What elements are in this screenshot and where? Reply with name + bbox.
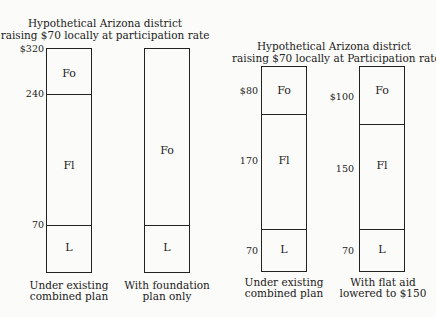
segment-fl: Fl — [47, 159, 91, 172]
caption-line2: combined plan — [22, 291, 116, 302]
divider — [262, 229, 306, 230]
tick-70: 70 — [14, 219, 44, 230]
tick-80: $80 — [228, 85, 258, 96]
divider — [47, 225, 91, 226]
right-title-line2: raising $70 locally at Participation rat… — [232, 52, 436, 64]
left-title-line2: raising $70 locally at participation rat… — [0, 29, 210, 41]
right-title-line1: Hypothetical Arizona district — [232, 40, 436, 52]
segment-fo: Fo — [47, 67, 91, 80]
tick-70: 70 — [322, 245, 354, 256]
divider — [145, 225, 189, 226]
divider — [262, 114, 306, 115]
caption-line2: combined plan — [234, 288, 334, 299]
divider — [360, 124, 404, 125]
bar-foundation-only: Fo L — [144, 48, 190, 273]
segment-fo: Fo — [262, 84, 306, 97]
segment-fo: Fo — [145, 144, 189, 157]
segment-l: L — [360, 243, 404, 256]
segment-l: L — [262, 243, 306, 256]
tick-170: 170 — [228, 155, 258, 166]
segment-fo: Fo — [360, 84, 404, 97]
bar-existing-plan-right: Fo Fl L — [261, 66, 307, 272]
tick-240: 240 — [14, 88, 44, 99]
segment-fl: Fl — [262, 154, 306, 167]
bar-existing-plan-left: Fo Fl L — [46, 48, 92, 273]
tick-100: $100 — [322, 91, 354, 102]
segment-l: L — [145, 241, 189, 254]
left-title-line1: Hypothetical Arizona district — [0, 17, 210, 29]
bar-flat-aid-lowered: Fo Fl L — [359, 66, 405, 272]
tick-150: 150 — [322, 163, 354, 174]
segment-fl: Fl — [360, 159, 404, 172]
divider — [47, 94, 91, 95]
caption-line2: lowered to $150 — [330, 288, 436, 299]
caption-line2: plan only — [114, 291, 220, 302]
tick-320: $320 — [14, 43, 44, 54]
divider — [360, 229, 404, 230]
segment-l: L — [47, 241, 91, 254]
tick-70: 70 — [228, 245, 258, 256]
